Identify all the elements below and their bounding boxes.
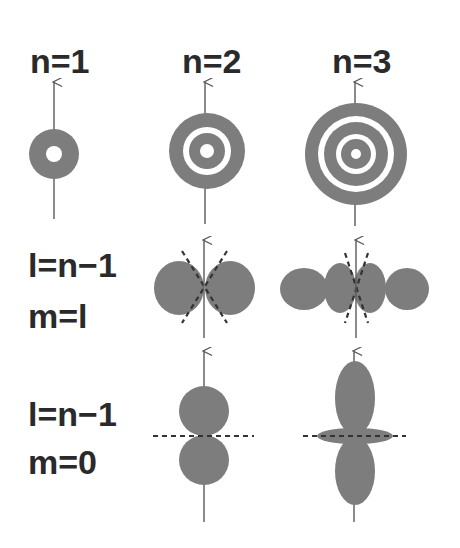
lobe-bottom [335, 437, 375, 505]
column-label-n3: n=3 [332, 42, 392, 80]
disc-center-hole [200, 144, 214, 158]
column-label-n1: n=1 [30, 42, 90, 80]
panel-radial-n1 [29, 82, 79, 219]
equatorial-torus [317, 428, 393, 444]
panel-m0-n3 [303, 351, 406, 522]
column-label-n2: n=2 [182, 42, 242, 80]
panel-ml-n3 [280, 240, 429, 338]
panel-radial-n3 [305, 82, 407, 226]
lobe-outer-right [385, 268, 429, 310]
row-label-ml-line1: l=n−1 [28, 246, 117, 284]
row-label-m0-line1: l=n−1 [28, 395, 117, 433]
panel-m0-n2 [153, 351, 254, 522]
lobe-top [335, 361, 375, 435]
disc-center-hole [46, 146, 62, 162]
panel-ml-n2 [154, 240, 255, 338]
lobe-right [205, 261, 255, 315]
row-label-ml-line2: m=l [28, 297, 88, 335]
row-label-m0-line2: m=0 [28, 443, 97, 481]
lobe-top [179, 386, 229, 436]
lobe-inner-right [354, 263, 386, 313]
lobe-outer-left [280, 268, 328, 310]
lobe-bottom [179, 435, 229, 485]
orbital-diagram: n=1 n=2 n=3 l=n−1 m=l l=n−1 m=0 [0, 0, 460, 548]
panel-radial-n2 [169, 82, 245, 224]
lobe-left [154, 261, 204, 315]
disc-center-hole [351, 149, 361, 159]
